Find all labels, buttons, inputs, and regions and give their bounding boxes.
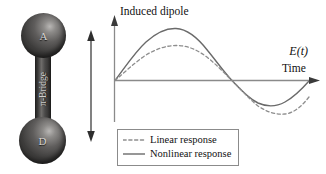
pi-bridge-label: π-Bridge bbox=[38, 72, 48, 106]
acceptor-label: A bbox=[21, 13, 66, 58]
plot-legend: Linear response Nonlinear response bbox=[117, 129, 239, 166]
legend-label-nonlinear: Nonlinear response bbox=[150, 148, 231, 160]
legend-item-linear: Linear response bbox=[123, 133, 231, 147]
figure-container: π-Bridge A D E(t) Induced dipole Time bbox=[0, 0, 326, 174]
double-headed-arrow-icon bbox=[78, 30, 104, 142]
donor-label: D bbox=[19, 117, 66, 164]
acceptor-sphere: A bbox=[21, 13, 66, 58]
legend-item-nonlinear: Nonlinear response bbox=[123, 147, 231, 161]
donor-sphere: D bbox=[19, 117, 66, 164]
nonlinear-response-curve bbox=[115, 28, 309, 105]
electric-field-arrow-group bbox=[78, 30, 104, 142]
solid-line-icon bbox=[123, 149, 145, 159]
legend-label-linear: Linear response bbox=[150, 134, 217, 146]
x-axis bbox=[115, 77, 321, 84]
y-axis bbox=[111, 15, 118, 122]
dashed-line-icon bbox=[123, 135, 145, 145]
